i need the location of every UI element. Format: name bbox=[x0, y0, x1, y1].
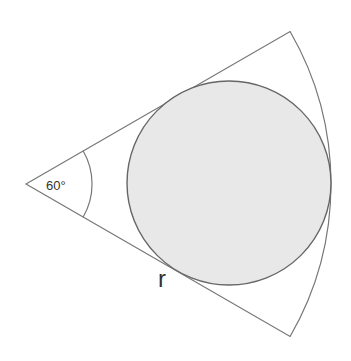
sector-diagram: 60° r bbox=[0, 0, 351, 361]
angle-label: 60° bbox=[46, 178, 66, 193]
angle-arc bbox=[83, 151, 92, 217]
radius-label: r bbox=[158, 265, 166, 292]
diagram-canvas: 60° r bbox=[0, 0, 351, 361]
inscribed-circle bbox=[127, 81, 331, 285]
